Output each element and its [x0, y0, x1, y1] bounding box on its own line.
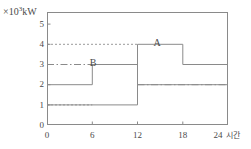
y-tick-label-2: 2	[30, 80, 44, 89]
y-axis-ticks	[47, 24, 51, 105]
y-axis-unit-label: ×103kW	[3, 6, 37, 17]
x-tick-label-0: 0	[39, 131, 55, 140]
x-tick-label-12: 12	[130, 131, 146, 140]
x-axis-ticks	[92, 122, 183, 126]
y-tick-label-0: 0	[30, 121, 44, 130]
plot-area	[47, 12, 228, 125]
series-line-a	[47, 44, 228, 105]
y-tick-label-4: 4	[30, 40, 44, 49]
x-tick-label-18: 18	[175, 131, 191, 140]
x-tick-label-24: 24	[210, 131, 226, 140]
series-label-a: A	[150, 38, 164, 48]
x-tick-label-6: 6	[84, 131, 100, 140]
y-tick-label-1: 1	[30, 101, 44, 110]
chart-container: ×103kW	[0, 0, 251, 149]
y-axis-unit-suffix: kW	[22, 6, 36, 17]
y-tick-label-5: 5	[30, 20, 44, 29]
y-tick-label-3: 3	[30, 60, 44, 69]
x-axis-unit-label: 시간	[226, 131, 240, 140]
y-axis-unit-mantissa: ×10	[3, 6, 19, 17]
series-label-b: B	[86, 58, 100, 68]
